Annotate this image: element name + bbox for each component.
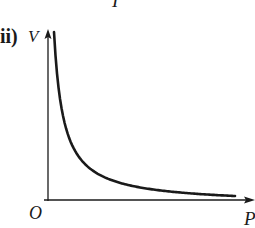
data-curve [54, 32, 235, 196]
plot-area [0, 0, 255, 228]
